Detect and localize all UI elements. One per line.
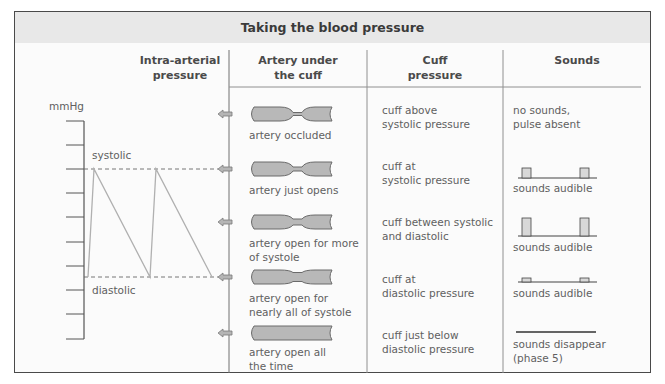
sounds-label-2: sounds audible bbox=[513, 181, 592, 195]
axis-unit-label: mmHg bbox=[49, 99, 84, 113]
sound-bar-small bbox=[518, 168, 597, 178]
diastolic-label: diastolic bbox=[92, 283, 136, 297]
artery-open-all-icon bbox=[252, 326, 333, 340]
systolic-label: systolic bbox=[92, 148, 131, 162]
sound-bar-tiny bbox=[518, 278, 597, 282]
artery-open-more-icon bbox=[252, 215, 333, 229]
sounds-label-4: sounds audible bbox=[513, 286, 592, 300]
sounds-label-5: sounds disappear (phase 5) bbox=[513, 337, 606, 365]
artery-just-opens-icon bbox=[252, 162, 333, 176]
artery-nearly-all-icon bbox=[252, 270, 333, 284]
cuff-label-3: cuff between systolic and diastolic bbox=[382, 215, 493, 243]
artery-label-5: artery open all the time bbox=[249, 345, 326, 373]
artery-label-3: artery open for more of systole bbox=[249, 236, 359, 264]
pressure-axis bbox=[66, 121, 84, 339]
cuff-label-4: cuff at diastolic pressure bbox=[382, 272, 474, 300]
sounds-label-1: no sounds, pulse absent bbox=[513, 103, 580, 131]
cuff-label-1: cuff above systolic pressure bbox=[382, 103, 470, 131]
arrow-icons bbox=[218, 110, 232, 337]
pressure-waveform bbox=[88, 169, 212, 277]
artery-label-1: artery occluded bbox=[249, 128, 332, 142]
cuff-label-2: cuff at systolic pressure bbox=[382, 159, 470, 187]
artery-label-2: artery just opens bbox=[249, 183, 338, 197]
sound-bar-tall bbox=[518, 218, 597, 236]
artery-label-4: artery open for nearly all of systole bbox=[249, 291, 351, 319]
artery-occluded-icon bbox=[252, 107, 333, 121]
cuff-label-5: cuff just below diastolic pressure bbox=[382, 328, 474, 356]
sounds-label-3: sounds audible bbox=[513, 240, 592, 254]
